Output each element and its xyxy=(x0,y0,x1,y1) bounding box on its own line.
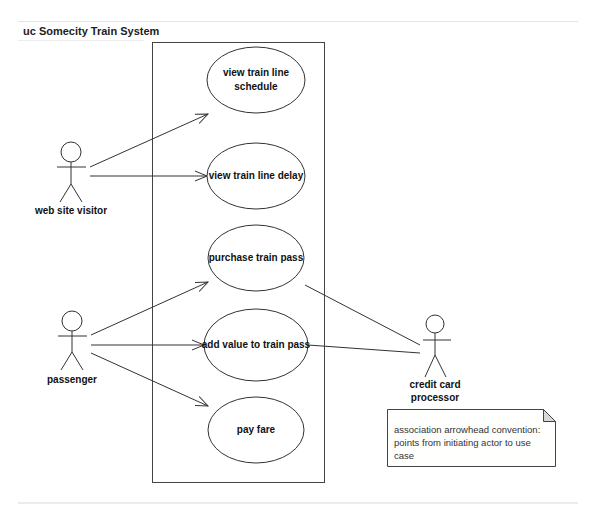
actor-credit-card-processor-icon[interactable] xyxy=(423,315,451,377)
use-case-label-line1: view train line xyxy=(223,66,289,80)
actor-label-credit-card-processor: credit card processor xyxy=(395,378,475,404)
use-case-label-view-train-line-delay: view train line delay xyxy=(203,169,309,183)
actor-web-site-visitor-icon[interactable] xyxy=(57,142,86,202)
use-case-label-line2: schedule xyxy=(234,80,277,94)
association-passenger-purchase[interactable] xyxy=(91,282,208,335)
actor-label-line2: processor xyxy=(395,391,475,404)
actor-label-line1: credit card xyxy=(395,378,475,391)
use-case-label-pay-fare: pay fare xyxy=(207,423,305,437)
use-case-label-add-value-to-train-pass: add value to train pass xyxy=(198,338,314,352)
use-case-label-purchase-train-pass: purchase train pass xyxy=(204,251,308,265)
diagram-frame-bottom-border xyxy=(18,502,578,504)
association-visitor-schedule[interactable] xyxy=(90,114,208,167)
note-text: association arrowhead convention: points… xyxy=(394,423,550,462)
actor-passenger-icon[interactable] xyxy=(58,311,87,370)
note-fold-corner xyxy=(544,410,556,422)
association-purchase-credit-card[interactable] xyxy=(305,285,420,345)
actor-label-web-site-visitor: web site visitor xyxy=(21,204,121,217)
actor-label-passenger: passenger xyxy=(32,373,112,386)
use-case-label-view-train-line-schedule: view train line schedule xyxy=(207,66,305,94)
